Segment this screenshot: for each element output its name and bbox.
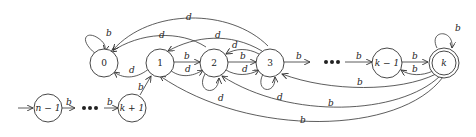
state-k+1: k + 1: [118, 94, 146, 122]
state-0: 0: [90, 49, 118, 77]
edge-label: b: [412, 64, 418, 74]
edge-label: d: [159, 30, 165, 40]
edge-label: b: [357, 77, 363, 87]
edge-label: b: [66, 97, 72, 107]
edge-label: d: [129, 65, 135, 75]
edge-3-0: [113, 18, 268, 50]
edge-label: b: [240, 51, 246, 61]
state-label: 3: [267, 58, 273, 68]
edge-label: d: [185, 64, 191, 74]
edge-label: b: [107, 97, 113, 107]
edge-label: d: [232, 40, 238, 50]
state-label: k − 1: [375, 58, 399, 68]
edge-label: b: [412, 51, 418, 61]
state-1: 1: [146, 49, 174, 77]
state-label: 1: [157, 58, 163, 68]
state-n-1-initial: n − 1: [34, 94, 62, 122]
state-label: k + 1: [120, 103, 144, 113]
edge-label: b: [300, 115, 306, 125]
edge-label: b: [106, 28, 112, 38]
ellipsis-top: [324, 60, 340, 64]
edge-label: b: [296, 51, 302, 61]
edge-label: d: [218, 93, 224, 103]
edge-label: b: [328, 98, 334, 108]
edge-label: b: [455, 23, 461, 33]
state-label: 2: [211, 58, 217, 68]
state-diagram: b d d d d b d d b d d d: [0, 0, 476, 137]
ellipsis-bottom: [82, 106, 98, 110]
edge-label: b: [356, 51, 362, 61]
state-k-accepting: k: [429, 48, 459, 78]
edge-label: b: [138, 82, 144, 92]
state-k-1: k − 1: [372, 48, 402, 78]
edge-label: b: [184, 51, 190, 61]
edge-label: d: [215, 30, 221, 40]
state-3: 3: [256, 49, 284, 77]
state-label: k: [441, 58, 446, 68]
edge-k-k: [435, 34, 452, 48]
state-2: 2: [200, 49, 228, 77]
edge-label: d: [186, 12, 192, 22]
edge-label: d: [242, 64, 248, 74]
state-label: n − 1: [36, 103, 61, 113]
state-label: 0: [101, 58, 107, 68]
